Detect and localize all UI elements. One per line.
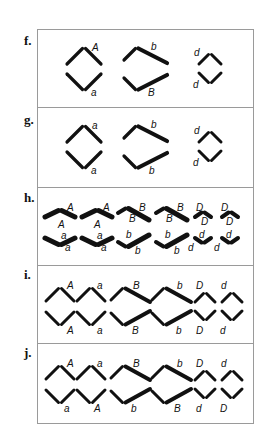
chromatid-arm <box>152 289 164 301</box>
chromatid-arm <box>207 389 216 398</box>
panel-label: j. <box>23 345 32 360</box>
chromosome-chevron-down <box>199 151 221 161</box>
panel-label: f. <box>24 33 32 48</box>
chromosome-chevron-up <box>199 55 221 65</box>
chromatid-arm <box>67 127 83 143</box>
panel-label: g. <box>24 112 34 127</box>
chromatid-arm <box>195 311 204 320</box>
chromosome-chevron-up <box>195 294 215 303</box>
chromatid-arm <box>195 389 204 398</box>
chromosome-chevron-down-long <box>152 311 191 325</box>
allele-label: a <box>64 403 70 414</box>
allele-label: b <box>151 119 157 130</box>
chromatid-arm <box>222 389 231 398</box>
chromatid-arm <box>126 311 151 325</box>
chromosome-chevron-up <box>195 372 215 381</box>
chromatid-arm <box>77 312 90 325</box>
chromatid-arm <box>207 311 216 320</box>
chromosome-chevron-down-long <box>152 389 191 403</box>
allele-label: D <box>196 202 203 213</box>
allele-label: d <box>194 47 200 58</box>
chromosome-chevron-down-long <box>124 75 167 90</box>
chromatid-arm <box>124 49 136 61</box>
chromatid-arm <box>46 312 59 325</box>
chromatid-arm <box>67 152 83 168</box>
allele-label: A <box>57 219 65 230</box>
chromosome-chevron-up <box>222 372 242 381</box>
chromosome-chevron-down-long <box>111 389 150 403</box>
chromosome-chevron-down-long <box>111 311 150 325</box>
allele-label: A <box>93 403 101 414</box>
allele-label: d <box>221 280 227 291</box>
chromatid-arm <box>46 367 59 380</box>
chromosome-chevron-down <box>222 311 242 320</box>
chromatid-arm <box>152 391 164 403</box>
chromatid-arm <box>82 238 96 245</box>
chromatid-arm <box>167 311 192 325</box>
allele-label: b <box>135 245 141 256</box>
allele-label: a <box>92 120 98 131</box>
chromatid-arm <box>212 151 222 161</box>
allele-label: b <box>149 165 155 176</box>
chromatid-arm <box>62 312 75 325</box>
allele-label: d <box>193 157 199 168</box>
chromatid-arm <box>124 127 136 139</box>
chromatid-arm <box>45 238 59 245</box>
allele-label: A <box>66 358 74 369</box>
chromatid-arm <box>124 78 136 90</box>
chromatid-arm <box>111 367 123 379</box>
chromatid-arm <box>222 372 231 381</box>
allele-label: A <box>66 280 74 291</box>
chromatid-arm <box>195 372 204 381</box>
chromosome-diagram: f.AabBddg.aabbddh.AAAABBBBDDDDaaaabbbbdd… <box>0 0 264 448</box>
chromatid-arm <box>195 294 204 303</box>
chromatid-arm <box>199 151 209 161</box>
allele-label: d <box>196 403 202 414</box>
allele-label: A <box>91 42 99 53</box>
chromosome-chevron-up-long <box>124 127 167 142</box>
chromosome-chevron-up-long <box>111 289 150 303</box>
allele-label: B <box>166 213 173 224</box>
allele-label: a <box>97 358 103 369</box>
chromatid-arm <box>111 289 123 301</box>
chromatid-arm <box>234 294 243 303</box>
allele-label: B <box>148 87 155 98</box>
allele-label: b <box>131 403 137 414</box>
chromosome-chevron-down <box>46 312 74 325</box>
chromatid-arm <box>152 313 164 325</box>
allele-label: b <box>177 358 183 369</box>
allele-label: D <box>201 216 208 227</box>
allele-label: B <box>139 202 146 213</box>
chromosome-chevron-down <box>199 73 221 83</box>
chromosome-chevron-up-long <box>111 367 150 381</box>
allele-label: b <box>177 280 183 291</box>
chromatid-arm <box>232 238 239 243</box>
chromatid-arm <box>222 311 231 320</box>
panels: f.AabBddg.aabbddh.AAAABBBBDDDDaaaabbbbdd… <box>23 33 242 414</box>
panel-g: g.aabbdd <box>24 112 221 176</box>
chromosome-flat-down-long <box>118 235 149 247</box>
allele-label: d <box>188 242 194 253</box>
chromatid-arm <box>93 312 106 325</box>
panel-h: h.AAAABBBBDDDDaaaabbbbdddd <box>24 190 238 256</box>
allele-label: b <box>126 229 132 240</box>
allele-label: d <box>194 125 200 136</box>
chromatid-arm <box>234 311 243 320</box>
chromatid-arm <box>234 389 243 398</box>
allele-label: d <box>214 242 220 253</box>
allele-label: B <box>129 213 136 224</box>
chromatid-arm <box>212 73 222 83</box>
chromosome-chevron-up <box>222 294 242 303</box>
chromatid-arm <box>234 372 243 381</box>
allele-label: B <box>133 358 140 369</box>
chromatid-arm <box>46 289 59 302</box>
chromosome-chevron-down <box>222 389 242 398</box>
allele-label: d <box>220 325 226 336</box>
allele-label: A <box>93 219 101 230</box>
chromosome-chevron-down <box>77 312 105 325</box>
chromatid-arm <box>212 55 222 65</box>
panel-f: f.AabBdd <box>24 33 221 98</box>
chromatid-arm <box>199 133 209 143</box>
chromatid-arm <box>199 73 209 83</box>
allele-label: D <box>196 358 203 369</box>
